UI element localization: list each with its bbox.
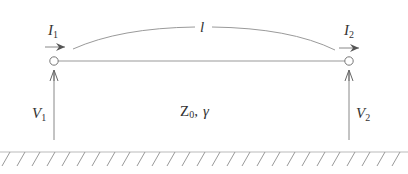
port2-terminal-node [345, 57, 353, 65]
port2-voltage-arrowhead-icon [345, 70, 353, 81]
port1-voltage-arrowhead-icon [50, 70, 58, 81]
port1-voltage-label: V1 [32, 105, 46, 123]
port1-terminal-node [50, 57, 58, 65]
line-parameters-label: Z0,γ [180, 103, 210, 120]
length-arc-left [73, 27, 195, 49]
port1-current-label: I1 [47, 22, 58, 40]
port2-current-label: I2 [343, 22, 354, 40]
ground-plane-icon [0, 152, 408, 166]
length-arc-right [212, 27, 335, 50]
transmission-line-diagram: l I1 I2 V1 V2 Z0,γ [0, 0, 408, 174]
length-label: l [200, 19, 204, 35]
port2-voltage-label: V2 [356, 105, 370, 123]
